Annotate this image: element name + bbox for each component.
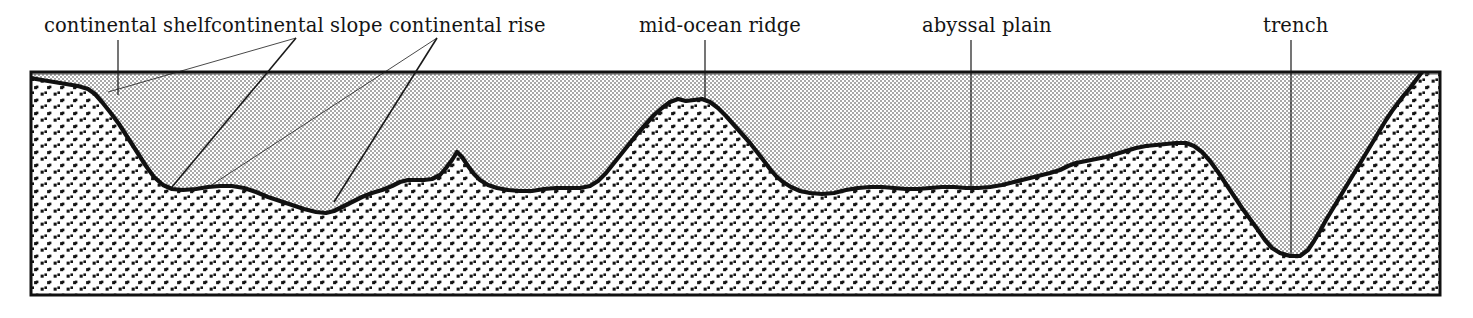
label-continental-rise: continental rise	[389, 14, 546, 37]
label-abyssal-plain: abyssal plain	[922, 14, 1052, 37]
label-continental-slope: continental slope	[211, 14, 383, 37]
ocean-floor-diagram: continental shelfcontinental slopecontin…	[0, 0, 1473, 318]
label-trench: trench	[1263, 14, 1329, 37]
label-mid-ocean-ridge: mid-ocean ridge	[639, 14, 801, 37]
diagram-canvas: continental shelfcontinental slopecontin…	[0, 0, 1473, 318]
label-continental-shelf: continental shelf	[44, 14, 213, 37]
